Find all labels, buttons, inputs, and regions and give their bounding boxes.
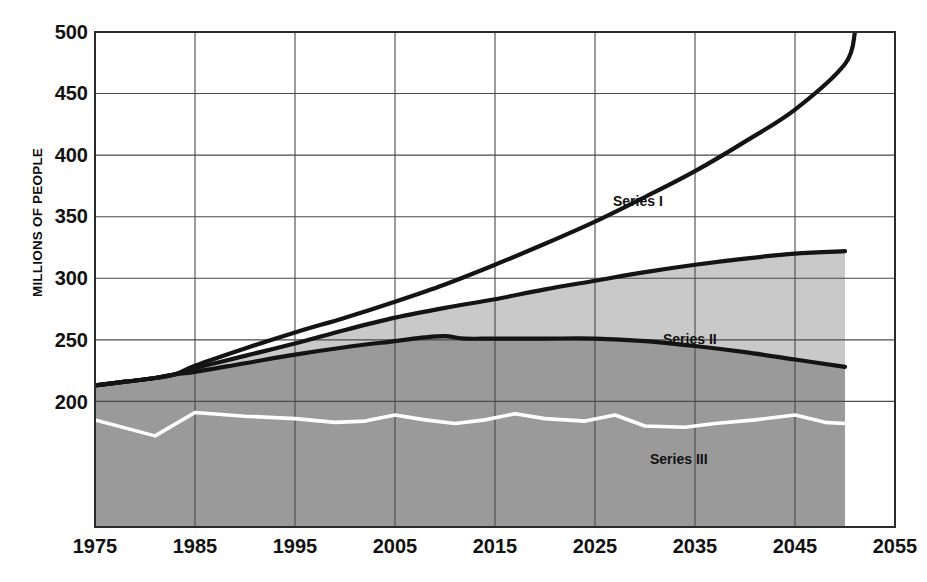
x-tick-label: 2005: [340, 536, 450, 556]
x-tick-label: 2045: [740, 536, 850, 556]
chart-plot: [0, 0, 927, 582]
annotation-series-ii: Series II: [663, 331, 717, 347]
x-tick-label: 1975: [40, 536, 150, 556]
chart-container: MILLIONS OF PEOPLE 500 450 400 350 300 2…: [0, 0, 927, 582]
x-tick-label: 2035: [640, 536, 750, 556]
x-tick-label: 2015: [440, 536, 550, 556]
x-tick-label: 2055: [840, 536, 927, 556]
x-tick-label: 1985: [140, 536, 250, 556]
x-axis-ticks: 1975 1985 1995 2005 2015 2025 2035 2045 …: [0, 536, 927, 572]
x-tick-label: 1995: [240, 536, 350, 556]
annotation-series-i: Series I: [613, 193, 663, 209]
annotation-series-iii: Series III: [650, 451, 708, 467]
x-tick-label: 2025: [540, 536, 650, 556]
